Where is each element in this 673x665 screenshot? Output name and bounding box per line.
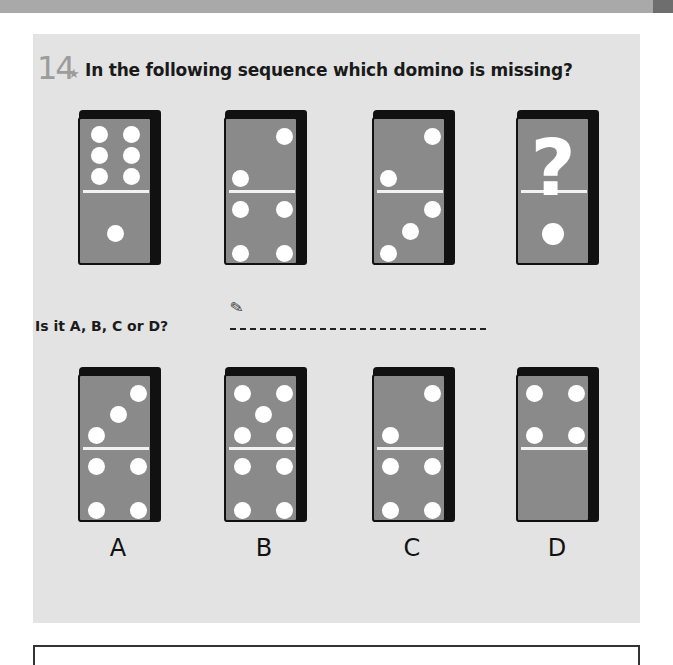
pip bbox=[526, 427, 543, 444]
pip bbox=[276, 128, 293, 145]
domino-face bbox=[224, 374, 298, 522]
pip bbox=[123, 147, 140, 164]
pip bbox=[276, 245, 293, 262]
domino-divider bbox=[229, 447, 295, 450]
pip bbox=[568, 385, 585, 402]
domino-face bbox=[78, 117, 152, 265]
pip bbox=[402, 223, 419, 240]
pip bbox=[382, 458, 399, 475]
pip bbox=[526, 385, 543, 402]
pip bbox=[424, 458, 441, 475]
domino-face bbox=[372, 117, 446, 265]
option-label-c[interactable]: C bbox=[392, 535, 432, 561]
pip bbox=[380, 245, 397, 262]
domino-divider bbox=[377, 190, 443, 193]
option-domino-d[interactable] bbox=[515, 367, 600, 524]
sequence-domino-missing: ? bbox=[515, 110, 600, 267]
question-text: In the following sequence which domino i… bbox=[85, 60, 573, 80]
pip bbox=[234, 502, 251, 519]
pip bbox=[382, 502, 399, 519]
pip bbox=[130, 458, 147, 475]
pip bbox=[276, 385, 293, 402]
pip bbox=[88, 502, 105, 519]
domino-divider bbox=[377, 447, 443, 450]
option-domino-b[interactable] bbox=[223, 367, 308, 524]
pip bbox=[568, 427, 585, 444]
pip bbox=[424, 502, 441, 519]
pip bbox=[424, 201, 441, 218]
pip bbox=[123, 126, 140, 143]
domino-face bbox=[224, 117, 298, 265]
pip bbox=[91, 147, 108, 164]
domino-divider bbox=[229, 190, 295, 193]
pip bbox=[232, 201, 249, 218]
pip bbox=[424, 128, 441, 145]
pip bbox=[276, 458, 293, 475]
domino-face: ? bbox=[516, 117, 590, 265]
pip bbox=[232, 245, 249, 262]
pip bbox=[542, 223, 564, 245]
answer-line[interactable] bbox=[230, 328, 486, 330]
pip bbox=[382, 427, 399, 444]
pip bbox=[276, 201, 293, 218]
pip bbox=[424, 385, 441, 402]
pencil-icon: ✎ bbox=[229, 299, 245, 317]
pip bbox=[276, 427, 293, 444]
pip bbox=[91, 168, 108, 185]
pip bbox=[130, 385, 147, 402]
pip bbox=[380, 170, 397, 187]
domino-face bbox=[78, 374, 152, 522]
pip bbox=[255, 406, 272, 423]
pip bbox=[276, 502, 293, 519]
top-strip-corner bbox=[653, 0, 673, 13]
option-domino-a[interactable] bbox=[77, 367, 162, 524]
option-domino-c[interactable] bbox=[371, 367, 456, 524]
star-icon: ★ bbox=[68, 67, 80, 80]
pip bbox=[232, 170, 249, 187]
domino-face bbox=[516, 374, 590, 522]
sequence-domino-2 bbox=[223, 110, 308, 267]
sequence-domino-3 bbox=[371, 110, 456, 267]
question-mark-icon: ? bbox=[523, 129, 583, 207]
option-label-a[interactable]: A bbox=[98, 535, 138, 561]
domino-divider bbox=[521, 447, 587, 450]
domino-divider bbox=[83, 447, 149, 450]
pip bbox=[130, 502, 147, 519]
pip bbox=[234, 427, 251, 444]
pip bbox=[107, 225, 124, 242]
pip bbox=[234, 385, 251, 402]
pip bbox=[91, 126, 108, 143]
pip bbox=[234, 458, 251, 475]
domino-divider bbox=[83, 190, 149, 193]
top-strip bbox=[0, 0, 673, 13]
domino-face bbox=[372, 374, 446, 522]
sequence-domino-1 bbox=[77, 110, 162, 267]
bottom-frame bbox=[33, 645, 640, 665]
answer-prompt: Is it A, B, C or D? bbox=[35, 317, 168, 335]
pip bbox=[88, 458, 105, 475]
pip bbox=[88, 427, 105, 444]
pip bbox=[123, 168, 140, 185]
option-label-d[interactable]: D bbox=[537, 535, 577, 561]
pip bbox=[110, 406, 127, 423]
option-label-b[interactable]: B bbox=[244, 535, 284, 561]
